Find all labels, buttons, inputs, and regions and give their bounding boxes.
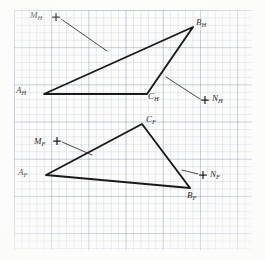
leader-nf (182, 170, 198, 174)
frontal-projection-triangle (46, 124, 190, 188)
vertex-label-af: AF (18, 168, 27, 179)
label-subscript: H (218, 97, 223, 104)
vertex-label-mf: MF (34, 137, 45, 148)
vertex-label-ch: CH (148, 92, 159, 103)
point-marker-mf (54, 138, 61, 145)
vertex-label-mh: MH (30, 11, 42, 22)
label-subscript: F (24, 171, 28, 178)
label-subscript: F (152, 118, 156, 125)
point-marker-nf (200, 172, 207, 179)
point-marker-nh (202, 97, 209, 104)
label-subscript: F (42, 140, 46, 147)
leader-mh (61, 19, 107, 51)
point-marker-mh (53, 14, 60, 21)
triangle-group (44, 27, 193, 188)
vertex-label-cf: CF (146, 115, 156, 126)
horizontal-projection-triangle (44, 27, 193, 94)
vertex-label-bh: BH (196, 18, 206, 29)
label-base: M (34, 136, 42, 146)
figure-vector-layer (0, 0, 265, 260)
drawing-sheet: MHBHAHCHNHCFMFAFNFBF (0, 0, 265, 260)
vertex-label-bf: BF (187, 191, 196, 202)
label-subscript: H (202, 21, 207, 28)
leader-line-group (61, 19, 200, 174)
label-subscript: F (216, 173, 220, 180)
label-subscript: H (38, 14, 43, 21)
label-base: M (30, 10, 38, 20)
label-subscript: H (154, 95, 159, 102)
label-subscript: H (22, 89, 27, 96)
label-subscript: F (193, 194, 197, 201)
vertex-label-nh: NH (212, 94, 223, 105)
vertex-label-nf: NF (210, 170, 220, 181)
leader-nh (166, 77, 200, 99)
leader-mf (62, 142, 92, 155)
vertex-label-ah: AH (16, 86, 26, 97)
